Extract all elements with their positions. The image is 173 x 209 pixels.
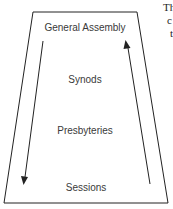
- right-up-arrow-icon: [124, 40, 151, 184]
- side-text-line3: t: [170, 28, 173, 39]
- side-text-line1: Th: [163, 2, 173, 13]
- level-general-assembly: General Assembly: [44, 23, 125, 33]
- level-sessions: Sessions: [66, 183, 107, 193]
- left-down-arrow-icon: [21, 41, 43, 185]
- trapezoid-frame: [4, 12, 168, 203]
- level-presbyteries: Presbyteries: [57, 126, 113, 136]
- level-synods: Synods: [68, 75, 101, 85]
- side-text-line2: c: [167, 15, 172, 26]
